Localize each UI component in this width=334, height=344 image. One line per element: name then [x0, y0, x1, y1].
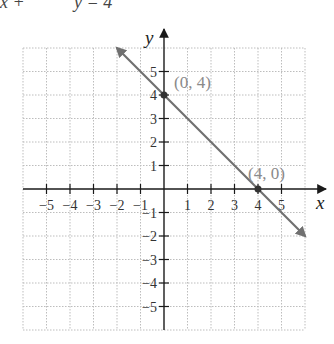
- coordinate-plane: x + y = 4 −5−4−3−2−112345−5−4−3−2−112345…: [0, 0, 334, 344]
- y-tick-label: 1: [150, 159, 157, 174]
- y-tick-label: −3: [142, 253, 157, 268]
- point-marker: [161, 92, 168, 99]
- y-tick-label: −5: [142, 300, 157, 315]
- y-tick-label: 4: [150, 88, 157, 103]
- y-tick-label: 2: [150, 135, 157, 150]
- y-tick-label: 3: [150, 112, 157, 127]
- point-label: (0, 4): [174, 73, 211, 92]
- point-label: (4, 0): [248, 164, 285, 183]
- top-fragment-right: y = 4: [72, 0, 112, 12]
- y-tick-label: −2: [142, 229, 157, 244]
- top-fragment: x + y = 4: [0, 0, 112, 12]
- y-tick-label: −4: [142, 276, 157, 291]
- y-tick-label: −1: [142, 206, 157, 221]
- top-fragment-left: x +: [0, 0, 25, 12]
- x-tick-label: −2: [110, 198, 125, 213]
- x-tick-label: −4: [63, 198, 78, 213]
- x-tick-label: 4: [255, 198, 262, 213]
- x-tick-label: 3: [231, 198, 238, 213]
- points: (0, 4)(4, 0): [161, 73, 285, 193]
- x-tick-label: 1: [184, 198, 191, 213]
- point-marker: [255, 186, 262, 193]
- y-tick-label: 5: [150, 65, 157, 80]
- x-tick-label: −5: [39, 198, 54, 213]
- y-axis-label: y: [143, 27, 154, 48]
- x-axis-label: x: [315, 192, 325, 213]
- x-tick-label: 2: [208, 198, 215, 213]
- x-tick-label: −3: [86, 198, 101, 213]
